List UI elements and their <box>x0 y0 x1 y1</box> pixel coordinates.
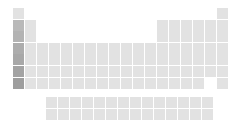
element-cell-f <box>205 20 216 31</box>
element-cell-tc <box>85 54 96 65</box>
element-cell-ti <box>49 43 60 54</box>
element-cell-b <box>157 20 168 31</box>
element-cell-dy <box>142 97 153 108</box>
element-cell-ni <box>121 43 132 54</box>
element-cell-gd <box>118 97 129 108</box>
element-cell-te <box>193 54 204 65</box>
element-cell-ta <box>61 66 72 77</box>
element-cell-y <box>37 54 48 65</box>
element-cell-p <box>181 31 192 42</box>
element-cell-cd <box>145 54 156 65</box>
element-cell-th <box>46 109 57 120</box>
element-cell-pr <box>58 97 69 108</box>
element-cell-bi <box>181 66 192 77</box>
element-cell-se <box>193 43 204 54</box>
element-cell-mc <box>181 78 192 89</box>
element-cell-no <box>190 109 201 120</box>
element-cell-ho <box>154 97 165 108</box>
element-cell-er <box>166 97 177 108</box>
element-cell-ba <box>25 66 36 77</box>
element-cell-na <box>13 31 24 42</box>
element-cell-cs <box>13 66 24 77</box>
element-cell-v <box>61 43 72 54</box>
element-cell-ra <box>25 78 36 89</box>
element-cell-k <box>13 43 24 54</box>
element-cell-al <box>157 31 168 42</box>
element-cell-i <box>205 54 216 65</box>
element-cell-bk <box>130 109 141 120</box>
element-cell-rf <box>49 78 60 89</box>
element-cell-yb <box>190 97 201 108</box>
element-cell-rb <box>13 54 24 65</box>
element-cell-nb <box>61 54 72 65</box>
element-cell-at <box>205 66 216 77</box>
element-cell-ru <box>97 54 108 65</box>
element-cell-pu <box>94 109 105 120</box>
element-cell-lr <box>202 109 213 120</box>
element-cell-lv <box>193 78 204 89</box>
element-cell-sr <box>25 54 36 65</box>
element-cell-re <box>85 66 96 77</box>
element-cell-br <box>205 43 216 54</box>
element-cell-co <box>109 43 120 54</box>
element-cell-sc <box>37 43 48 54</box>
element-cell-ir <box>109 66 120 77</box>
element-cell-sg <box>73 78 84 89</box>
element-cell-cn <box>145 78 156 89</box>
element-cell-mo <box>73 54 84 65</box>
element-cell-fm <box>166 109 177 120</box>
element-cell-mg <box>25 31 36 42</box>
element-cell-cf <box>142 109 153 120</box>
element-cell-np <box>82 109 93 120</box>
element-cell-md <box>178 109 189 120</box>
element-cell-cm <box>118 109 129 120</box>
element-cell-mt <box>109 78 120 89</box>
element-cell-tb <box>130 97 141 108</box>
element-cell-ca <box>25 43 36 54</box>
element-cell-o <box>193 20 204 31</box>
element-cell-cr <box>73 43 84 54</box>
element-cell-cu <box>133 43 144 54</box>
element-cell-c <box>169 20 180 31</box>
element-cell-rg <box>133 78 144 89</box>
element-cell-zn <box>145 43 156 54</box>
element-cell-lu <box>202 97 213 108</box>
element-cell-hs <box>97 78 108 89</box>
element-cell-ar <box>217 31 228 42</box>
element-cell-hf <box>49 66 60 77</box>
element-cell-tl <box>157 66 168 77</box>
element-cell-fl <box>169 78 180 89</box>
element-cell-ne <box>217 20 228 31</box>
element-cell-db <box>61 78 72 89</box>
element-cell-sm <box>94 97 105 108</box>
element-cell-in <box>157 54 168 65</box>
element-cell-ce <box>46 97 57 108</box>
element-cell-ag <box>133 54 144 65</box>
element-cell-li <box>13 20 24 31</box>
element-cell-h <box>13 8 24 19</box>
element-cell-ge <box>169 43 180 54</box>
element-cell-pa <box>58 109 69 120</box>
element-cell-pm <box>82 97 93 108</box>
element-cell-mn <box>85 43 96 54</box>
element-cell-bh <box>85 78 96 89</box>
element-cell-pd <box>121 54 132 65</box>
element-cell-ga <box>157 43 168 54</box>
element-cell-po <box>193 66 204 77</box>
element-cell-sb <box>181 54 192 65</box>
element-cell-ac <box>37 78 48 89</box>
element-cell-be <box>25 20 36 31</box>
element-cell-kr <box>217 43 228 54</box>
element-cell-cl <box>205 31 216 42</box>
element-cell-es <box>154 109 165 120</box>
element-cell-nh <box>157 78 168 89</box>
periodic-table-diagram <box>0 0 229 125</box>
element-cell-he <box>217 8 228 19</box>
element-cell-rh <box>109 54 120 65</box>
element-cell-s <box>193 31 204 42</box>
element-cell-w <box>73 66 84 77</box>
element-cell-tm <box>178 97 189 108</box>
element-cell-fr <box>13 78 24 89</box>
element-cell-pb <box>169 66 180 77</box>
element-cell-si <box>169 31 180 42</box>
